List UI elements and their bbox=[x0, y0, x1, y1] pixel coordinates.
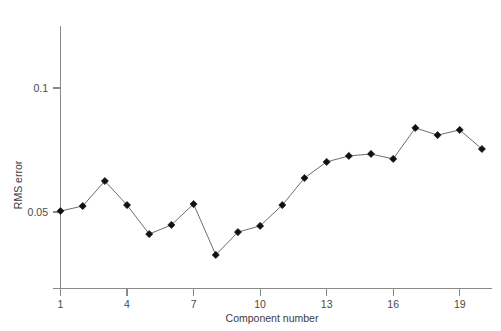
y-tick-label: 0.1 bbox=[33, 82, 48, 94]
x-tick-label: 19 bbox=[454, 298, 466, 310]
x-tick-label: 10 bbox=[254, 298, 266, 310]
chart-figure: 0.050.1 14710131619 Component number RMS… bbox=[0, 0, 501, 331]
x-tick-label: 7 bbox=[191, 298, 197, 310]
y-tick-label: 0.05 bbox=[28, 206, 49, 218]
rms-error-series-markers bbox=[57, 124, 486, 258]
x-tick-label: 16 bbox=[387, 298, 399, 310]
x-axis-title: Component number bbox=[226, 312, 319, 324]
rms-error-line-chart: 0.050.1 14710131619 Component number RMS… bbox=[0, 0, 501, 331]
y-axis-title: RMS error bbox=[12, 160, 24, 209]
data-point-marker bbox=[434, 132, 441, 139]
data-point-marker bbox=[412, 124, 419, 131]
x-tick-group bbox=[61, 289, 460, 297]
x-tick-label: 13 bbox=[321, 298, 333, 310]
x-tick-label: 1 bbox=[58, 298, 64, 310]
data-point-marker bbox=[345, 152, 352, 159]
y-tick-label-group: 0.050.1 bbox=[28, 82, 49, 218]
data-point-marker bbox=[323, 158, 330, 165]
x-tick-label-group: 14710131619 bbox=[58, 298, 466, 310]
x-tick-label: 4 bbox=[124, 298, 130, 310]
data-point-marker bbox=[390, 155, 397, 162]
data-point-marker bbox=[367, 150, 374, 157]
data-point-marker bbox=[57, 207, 64, 214]
rms-error-series-line bbox=[61, 128, 482, 255]
y-tick-group bbox=[53, 88, 61, 212]
